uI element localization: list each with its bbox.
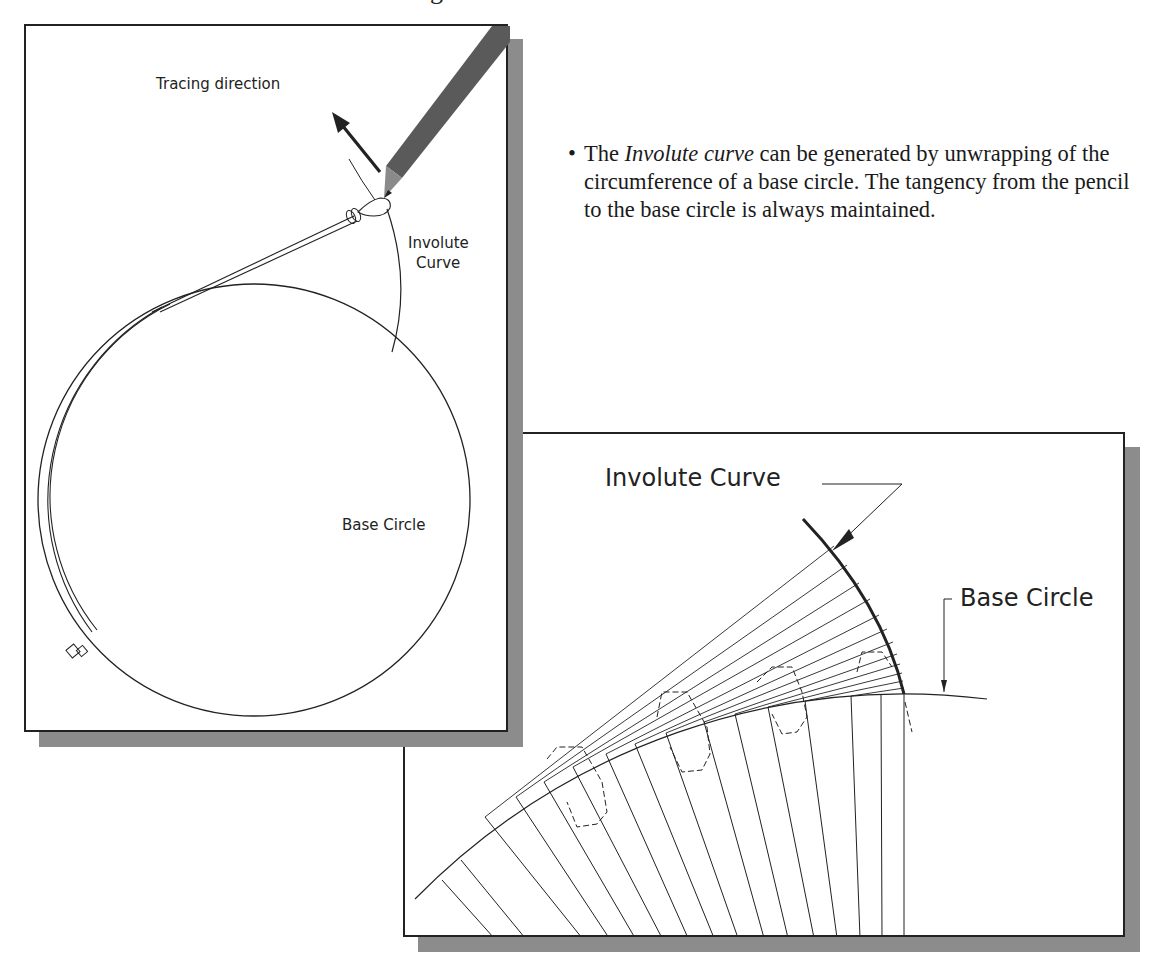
bullet-marker: •: [568, 140, 576, 168]
base-circle-leader: [941, 599, 952, 692]
involute-curve-leader: [822, 484, 902, 551]
hand-icon: [358, 198, 390, 216]
involute-curve-label: Involute Curve: [605, 464, 781, 492]
string-end-tab-icon: [66, 644, 88, 658]
base-circle-label-left: Base Circle: [342, 516, 425, 534]
description-prefix: The: [584, 141, 625, 166]
involute-string-illustration: [26, 26, 510, 734]
base-circle-shape: [38, 284, 470, 716]
description-emphasis: Involute curve: [625, 141, 754, 166]
tracing-direction-arrow-icon: [332, 112, 380, 172]
pencil-icon: [384, 26, 510, 198]
involute-curve-path: [387, 209, 401, 352]
left-figure-panel: Tracing direction Involute Curve Base Ci…: [24, 24, 508, 732]
tracing-direction-label: Tracing direction: [156, 75, 280, 93]
clipped-heading-fragment: g: [430, 0, 443, 6]
involute-label-line1: Involute: [408, 234, 469, 252]
base-circle-label-right: Base Circle: [960, 584, 1093, 612]
involute-description: • The Involute curve can be generated by…: [584, 140, 1144, 224]
involute-label-line2: Curve: [416, 254, 460, 272]
tangent-lines: [485, 546, 904, 817]
